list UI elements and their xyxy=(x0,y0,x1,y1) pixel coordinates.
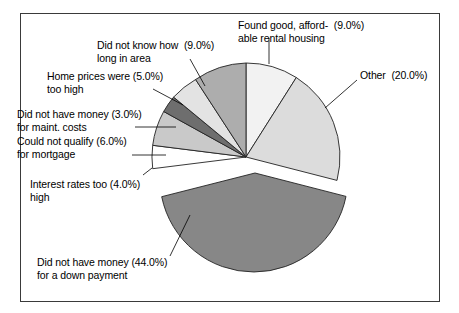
label-maint-line2: for maint. costs xyxy=(17,121,87,133)
label-rental-housing: Found good, afford- (9.0%) able rental h… xyxy=(238,19,364,44)
pie-slices xyxy=(152,63,346,272)
label-know-pct: (9.0%) xyxy=(184,39,214,51)
label-rental-line2: able rental housing xyxy=(238,32,325,44)
label-qualify-pct: (6.0%) xyxy=(96,135,126,147)
label-mortgage-qualify: Could not qualify (6.0%) for mortgage xyxy=(17,135,127,160)
leader-line-other xyxy=(325,80,357,108)
label-interest-rates: Interest rates too (4.0%) high xyxy=(30,178,140,203)
label-length-in-area: Did not know how (9.0%) long in area xyxy=(97,39,214,64)
label-home-prices: Home prices were (5.0%) too high xyxy=(47,70,163,95)
label-prices-line2: too high xyxy=(47,83,84,95)
label-qualify-line1: Could not qualify xyxy=(17,135,94,147)
pie-slice-down-payment[interactable] xyxy=(162,173,346,272)
label-other-line1: Other xyxy=(360,69,386,81)
label-maint-pct: (3.0%) xyxy=(111,108,141,120)
label-know-line2: long in area xyxy=(97,52,151,64)
label-down-line2: for a down payment xyxy=(37,269,127,281)
label-maint-line1: Did not have money xyxy=(17,108,109,120)
leader-line-interest xyxy=(143,168,152,175)
label-maint-costs: Did not have money (3.0%) for maint. cos… xyxy=(17,108,142,133)
label-rental-pct: (9.0%) xyxy=(334,19,364,31)
label-interest-pct: (4.0%) xyxy=(110,178,140,190)
label-interest-line2: high xyxy=(30,191,49,203)
label-qualify-line2: for mortgage xyxy=(17,148,75,160)
label-other-pct: (20.0%) xyxy=(391,69,427,81)
label-interest-line1: Interest rates too xyxy=(30,178,107,190)
label-down-line1: Did not have money xyxy=(37,256,129,268)
label-down-payment: Did not have money (44.0%) for a down pa… xyxy=(37,256,168,281)
label-prices-pct: (5.0%) xyxy=(133,70,163,82)
label-other: Other (20.0%) xyxy=(360,69,427,82)
label-down-pct: (44.0%) xyxy=(131,256,167,268)
pie-chart-figure: Found good, afford- (9.0%) able rental h… xyxy=(0,0,459,313)
label-know-line1: Did not know how xyxy=(97,39,178,51)
label-prices-line1: Home prices were xyxy=(47,70,130,82)
label-rental-line1: Found good, afford- xyxy=(238,19,328,31)
